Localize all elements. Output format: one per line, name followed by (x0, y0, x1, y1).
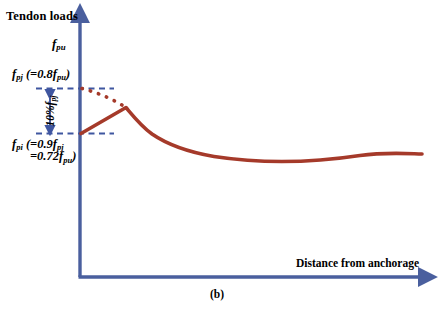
series-tendon-load-curve (81, 108, 422, 162)
label-fpi-line2-subscript: pu (63, 155, 72, 165)
figure-tendon-load-distribution: Tendon loads fpu fpj (=0.8fpu) 10%fpj fp… (0, 0, 440, 318)
label-fpj-relation: (=0.8 (23, 67, 53, 81)
series-dotted-jacking-extension (82, 89, 126, 108)
label-fpi-relation-subscript: pj (57, 142, 64, 152)
label-fpi-line2: =0.72fpu) (12, 150, 76, 163)
label-fpi-close-paren: ) (72, 149, 76, 163)
label-fpu: fpu (52, 37, 66, 51)
label-fpi: fpi (=0.9fpj =0.72fpu) (12, 138, 76, 163)
y-axis-title: Tendon loads (6, 10, 78, 23)
label-percent-drop-value: 10% (44, 105, 56, 126)
label-fpj-subscript: pj (16, 72, 23, 82)
label-fpi-line2-value: =0.72 (30, 149, 59, 163)
label-fpj-close-paren: ) (66, 67, 70, 81)
label-fpj-relation-subscript: pu (57, 72, 66, 82)
x-axis-title: Distance from anchorage (296, 257, 419, 269)
label-percent-drop-symbol: f (44, 102, 56, 106)
label-percent-drop: 10%fpj (35, 89, 65, 133)
label-percent-drop-subscript: pj (49, 96, 58, 102)
label-fpj: fpj (=0.8fpu) (12, 68, 70, 81)
label-fpi-subscript: pi (16, 142, 23, 152)
figure-caption: (b) (210, 288, 224, 300)
label-fpu-subscript: pu (56, 42, 65, 52)
